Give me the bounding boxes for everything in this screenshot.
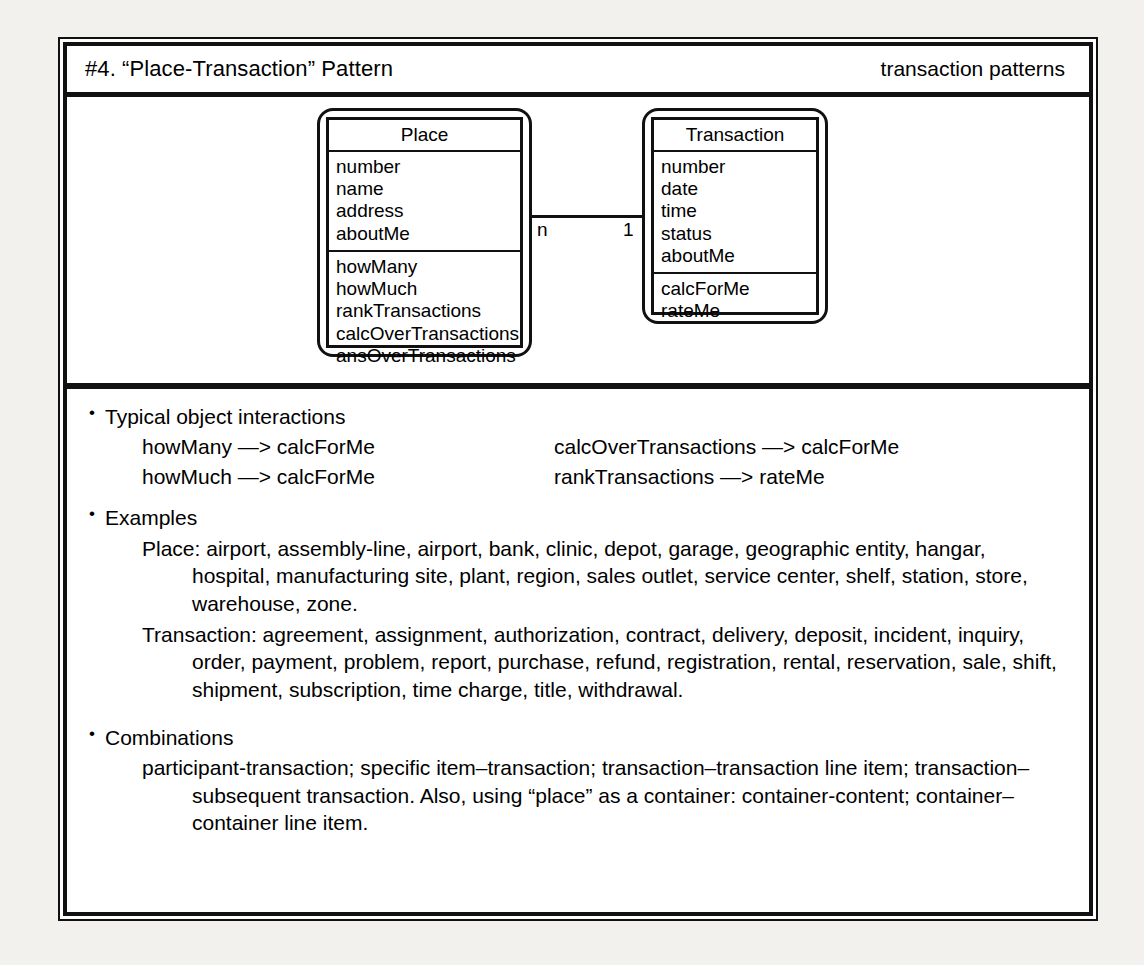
attribute-item: time	[661, 200, 816, 222]
page-frame: #4. “Place-Transaction” Pattern transact…	[58, 37, 1098, 921]
uml-class-transaction-operations: calcForMe rateMe	[654, 274, 816, 327]
operation-item: rateMe	[661, 300, 816, 322]
attribute-item: number	[336, 156, 520, 178]
interaction-item: calcOverTransactions —> calcForMe	[554, 432, 899, 461]
section-examples-heading: Examples	[89, 504, 1069, 531]
attribute-item: status	[661, 223, 816, 245]
pattern-details: Typical object interactions howMany —> c…	[67, 389, 1089, 912]
operation-item: howMuch	[336, 278, 520, 300]
example-entry-place: Place: airport, assembly-line, airport, …	[89, 535, 1069, 617]
interaction-item: rankTransactions —> rateMe	[554, 462, 899, 491]
association-multiplicity-source: n	[537, 219, 548, 241]
operation-item: howMany	[336, 256, 520, 278]
spacer	[89, 716, 1069, 724]
attribute-item: date	[661, 178, 816, 200]
uml-class-place-operations: howMany howMuch rankTransactions calcOve…	[329, 252, 520, 372]
association-multiplicity-target: 1	[623, 219, 634, 241]
operation-item: ansOverTransactions	[336, 345, 520, 367]
section-interactions-heading: Typical object interactions	[89, 403, 1069, 430]
attribute-item: number	[661, 156, 816, 178]
attribute-item: aboutMe	[336, 223, 520, 245]
section-combinations: Combinations participant-transaction; sp…	[89, 724, 1069, 836]
association-line	[532, 215, 642, 218]
attribute-item: aboutMe	[661, 245, 816, 267]
pattern-header: #4. “Place-Transaction” Pattern transact…	[67, 46, 1089, 97]
section-combinations-heading: Combinations	[89, 724, 1069, 751]
interaction-item: howMuch —> calcForMe	[142, 462, 554, 491]
example-transaction-text: Transaction: agreement, assignment, auth…	[142, 621, 1069, 703]
example-entry-transaction: Transaction: agreement, assignment, auth…	[89, 621, 1069, 703]
interactions-grid: howMany —> calcForMe howMuch —> calcForM…	[89, 432, 1069, 491]
interactions-column-left: howMany —> calcForMe howMuch —> calcForM…	[89, 432, 554, 491]
section-interactions: Typical object interactions howMany —> c…	[89, 403, 1069, 491]
attribute-item: name	[336, 178, 520, 200]
section-examples: Examples Place: airport, assembly-line, …	[89, 504, 1069, 703]
interactions-column-right: calcOverTransactions —> calcForMe rankTr…	[554, 432, 899, 491]
uml-class-place-name: Place	[329, 120, 520, 152]
combinations-entry: participant-transaction; specific item–t…	[89, 754, 1069, 836]
interaction-item: howMany —> calcForMe	[142, 432, 554, 461]
attribute-item: address	[336, 200, 520, 222]
pattern-category-label: transaction patterns	[881, 57, 1071, 81]
example-place-text: Place: airport, assembly-line, airport, …	[142, 535, 1069, 617]
uml-class-transaction-name: Transaction	[654, 120, 816, 152]
frame-inner: #4. “Place-Transaction” Pattern transact…	[67, 46, 1089, 912]
uml-class-transaction-inner: Transaction number date time status abou…	[651, 117, 819, 315]
operation-item: calcOverTransactions	[336, 323, 520, 345]
operation-item: rankTransactions	[336, 300, 520, 322]
combinations-text: participant-transaction; specific item–t…	[142, 754, 1069, 836]
uml-class-place-inner: Place number name address aboutMe howMan…	[326, 117, 523, 348]
uml-class-transaction-attributes: number date time status aboutMe	[654, 152, 816, 274]
page-title: #4. “Place-Transaction” Pattern	[85, 56, 393, 82]
uml-class-diagram: Place number name address aboutMe howMan…	[67, 97, 1089, 389]
uml-class-transaction: Transaction number date time status abou…	[642, 108, 828, 324]
uml-class-place-attributes: number name address aboutMe	[329, 152, 520, 252]
uml-class-place: Place number name address aboutMe howMan…	[317, 108, 532, 357]
operation-item: calcForMe	[661, 278, 816, 300]
